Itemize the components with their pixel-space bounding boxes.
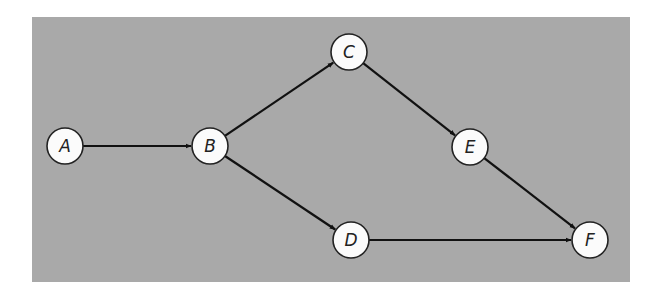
node-label: C [343,42,355,62]
node-label: D [344,230,357,250]
node-d: D [333,222,369,258]
node-label: B [204,136,216,156]
node-b: B [192,128,228,164]
node-label: F [585,230,595,250]
network-diagram: ABCDEF [0,0,661,297]
node-f: F [572,222,608,258]
node-a: A [47,128,83,164]
node-e: E [452,129,488,165]
node-label: E [465,137,476,157]
node-c: C [331,34,367,70]
node-label: A [58,136,71,156]
